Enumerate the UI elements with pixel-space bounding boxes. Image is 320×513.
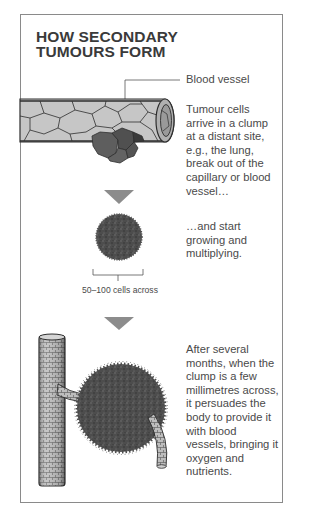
vertical-blood-vessel xyxy=(39,334,65,486)
large-tumour-clump xyxy=(75,362,168,455)
cell-size-caption: 50–100 cells across xyxy=(82,285,158,295)
size-bracket xyxy=(93,269,143,281)
blood-vessel-label: Blood vessel xyxy=(186,73,249,87)
tumour-cell-clump xyxy=(92,128,144,163)
small-tumour-clump xyxy=(96,214,142,260)
down-arrow-1 xyxy=(104,190,134,204)
step-1-text: Tumour cells arrive in a clump at a dist… xyxy=(186,103,282,198)
down-arrow-2 xyxy=(104,317,134,330)
step-2-text: …and start growing and multiplying. xyxy=(186,220,282,261)
step-3-text: After several months, when the clump is … xyxy=(186,343,282,479)
